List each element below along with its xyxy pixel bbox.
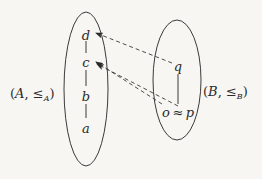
element-q: q xyxy=(174,59,182,74)
left-set-label: (A, ≤A) xyxy=(10,86,55,103)
mapping-q-d xyxy=(96,33,172,63)
element-o: o xyxy=(162,105,170,120)
element-c: c xyxy=(82,55,90,70)
right-set-label: (B, ≤B) xyxy=(203,84,248,101)
diagram-canvas: d c b a q o ≈ p (A, ≤A) (B, ≤B) xyxy=(0,0,262,179)
element-p: p xyxy=(186,105,195,120)
mapping-p-c xyxy=(97,64,178,106)
element-d: d xyxy=(82,28,90,43)
equiv-symbol: ≈ xyxy=(173,105,184,120)
element-b: b xyxy=(82,89,90,104)
mapping-o-c xyxy=(96,62,162,104)
right-set-ellipse xyxy=(153,20,201,140)
element-a: a xyxy=(82,121,90,136)
